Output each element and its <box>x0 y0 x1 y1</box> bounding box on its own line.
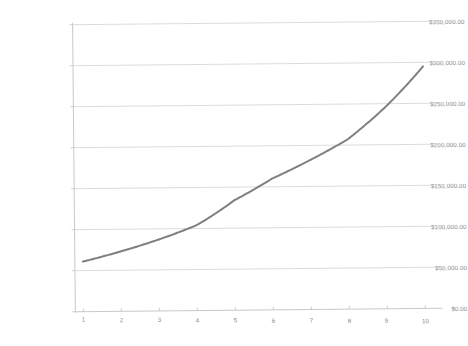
data-series-line <box>81 66 425 261</box>
plot-area <box>0 0 468 346</box>
gridlines-horizontal <box>73 21 442 271</box>
chart-plot-layer: $350,000.00 $300,000.00 $250,000.00 $200… <box>0 0 468 346</box>
y-axis-line <box>73 23 76 313</box>
